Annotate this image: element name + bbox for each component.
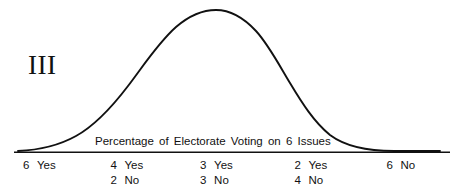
tick-label-group: 4Yes2No bbox=[110, 158, 143, 188]
tick-label-line: 6Yes bbox=[23, 158, 56, 173]
tick-word: Yes bbox=[308, 158, 327, 173]
tick-label-line: 4No bbox=[294, 173, 327, 188]
tick-label-group: 2Yes4No bbox=[294, 158, 327, 188]
tick-word: Yes bbox=[124, 158, 143, 173]
tick-word: No bbox=[308, 173, 323, 188]
tick-word: Yes bbox=[37, 158, 56, 173]
tick-label-group: 6Yes bbox=[23, 158, 56, 173]
tick-word: Yes bbox=[214, 158, 233, 173]
tick-label-line: 4Yes bbox=[110, 158, 143, 173]
tick-label-line: 2No bbox=[110, 173, 143, 188]
tick-count: 6 bbox=[23, 158, 37, 173]
tick-count: 3 bbox=[200, 158, 214, 173]
tick-count: 4 bbox=[110, 158, 124, 173]
tick-count: 4 bbox=[294, 173, 308, 188]
tick-label-group: 6No bbox=[386, 158, 415, 173]
tick-word: No bbox=[214, 173, 229, 188]
tick-label-line: 3Yes bbox=[200, 158, 233, 173]
tick-word: No bbox=[124, 173, 139, 188]
tick-count: 2 bbox=[110, 173, 124, 188]
tick-label-line: 6No bbox=[386, 158, 415, 173]
tick-label-group: 3Yes3No bbox=[200, 158, 233, 188]
axis-caption: Percentage of Electorate Voting on 6 Iss… bbox=[95, 135, 331, 148]
tick-count: 6 bbox=[386, 158, 400, 173]
tick-count: 3 bbox=[200, 173, 214, 188]
bell-curve-line bbox=[18, 10, 440, 151]
tick-label-line: 2Yes bbox=[294, 158, 327, 173]
tick-count: 2 bbox=[294, 158, 308, 173]
figure-container: III Percentage of Electorate Voting on 6… bbox=[0, 0, 460, 193]
tick-word: No bbox=[400, 158, 415, 173]
tick-label-line: 3No bbox=[200, 173, 233, 188]
